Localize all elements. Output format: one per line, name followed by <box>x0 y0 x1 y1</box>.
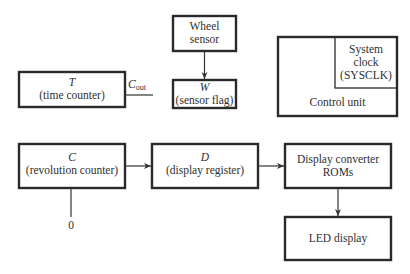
time-counter-symbol: T <box>19 76 125 89</box>
revolution-counter-symbol: C <box>19 151 125 164</box>
time-counter-label: T (time counter) <box>19 76 125 102</box>
led-display-label: LED display <box>285 232 391 245</box>
sensor-flag-label: W (sensor flag) <box>170 81 239 107</box>
carry-out-main: C <box>128 78 136 90</box>
wheel-sensor-line2: sensor <box>173 33 236 46</box>
carry-out-label: Cout <box>128 78 158 92</box>
display-converter-label: Display converter ROMs <box>285 153 391 179</box>
wheel-sensor-label: Wheel sensor <box>173 20 236 46</box>
zero-input-label: 0 <box>61 219 81 232</box>
system-clock-line2: clock <box>335 56 397 69</box>
display-converter-line2: ROMs <box>285 166 391 179</box>
system-clock-label: System clock (SYSCLK) <box>335 43 397 82</box>
sensor-flag-symbol: W <box>170 81 239 94</box>
display-converter-line1: Display converter <box>285 153 391 166</box>
revolution-counter-name: (revolution counter) <box>19 164 125 177</box>
display-register-symbol: D <box>152 151 258 164</box>
system-clock-line3: (SYSCLK) <box>335 69 397 82</box>
sensor-flag-name: (sensor flag) <box>170 94 239 107</box>
control-unit-label: Control unit <box>278 96 397 109</box>
display-register-name: (display register) <box>152 164 258 177</box>
time-counter-name: (time counter) <box>19 89 125 102</box>
wheel-sensor-line1: Wheel <box>173 20 236 33</box>
system-clock-line1: System <box>335 43 397 56</box>
carry-out-sub: out <box>136 83 146 92</box>
display-register-label: D (display register) <box>152 151 258 177</box>
revolution-counter-label: C (revolution counter) <box>19 151 125 177</box>
